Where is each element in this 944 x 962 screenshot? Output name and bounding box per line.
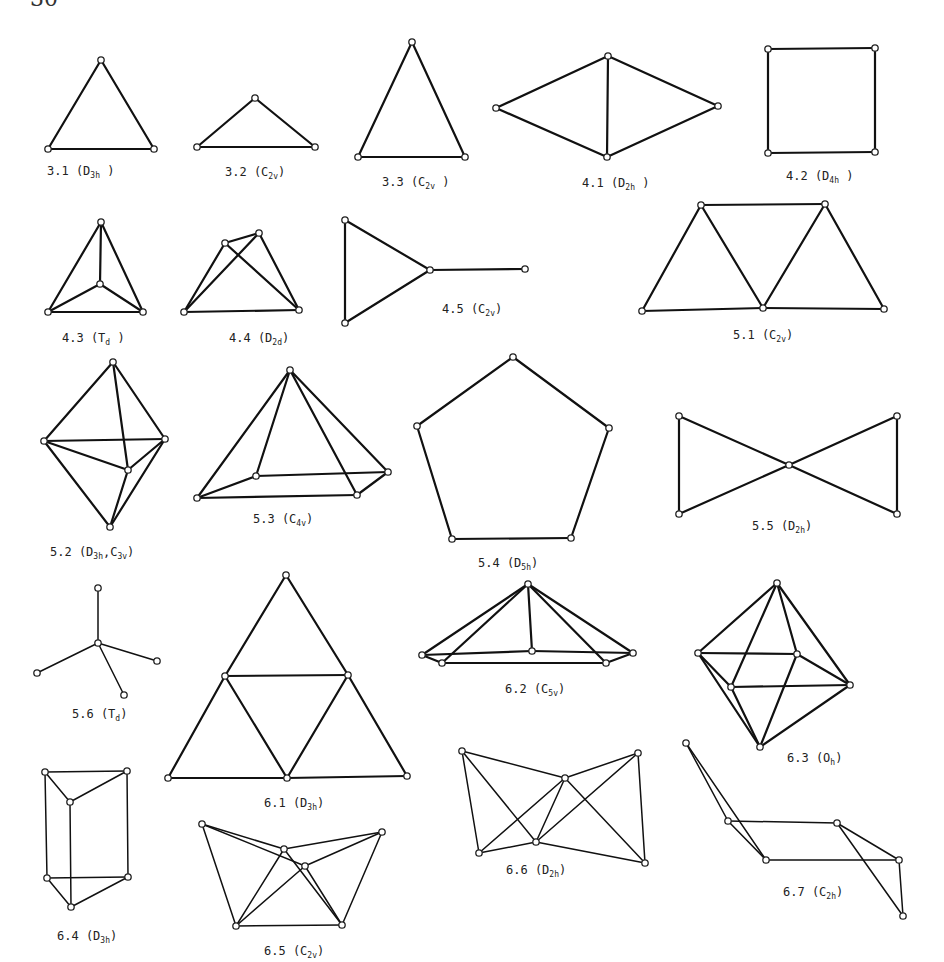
edge [608,56,718,106]
vertex-node [42,769,48,775]
edge [731,685,850,687]
vertex-node [757,744,763,750]
vertex-node [194,495,200,501]
edge [110,439,165,527]
edge [606,653,633,663]
edge [479,842,536,853]
edge [789,416,897,465]
edge [528,584,532,651]
vertex-node [287,367,293,373]
edge [236,866,305,926]
vertex-node [312,144,318,150]
edge [37,643,98,673]
edge [763,308,884,309]
edge [71,877,128,907]
edge [197,98,255,147]
figure-label: 3.3 (C2v ) [382,175,449,191]
vertex-node [427,267,433,273]
edge [731,687,760,747]
edge [113,362,128,470]
edge [496,56,608,108]
vertex-node [256,230,262,236]
edge [532,651,633,653]
figure-6-2: 6.2 (C5v) [419,581,636,698]
edge [462,751,565,778]
edge [345,270,430,323]
figure-6-1: 6.1 (D3h) [165,572,410,812]
edge [899,860,903,916]
vertex-node [125,467,131,473]
edge [513,357,609,428]
edge [287,675,348,778]
vertex-node [562,775,568,781]
edge [825,204,884,309]
vertex-node [283,572,289,578]
vertex-node [529,648,535,654]
edge [202,824,284,849]
vertex-node [296,307,302,313]
edge [184,243,225,312]
vertex-node [774,580,780,586]
edge [197,495,357,498]
edge [286,575,348,675]
vertex-node [162,436,168,442]
figure-5-6: 5.6 (Td) [34,585,160,723]
vertex-node [642,860,648,866]
vertex-node [95,640,101,646]
vertex-node [630,650,636,656]
vertex-node [639,308,645,314]
figure-label: 4.3 (Td ) [62,331,125,347]
edge [679,465,789,514]
figure-4-4: 4.4 (D2d) [181,230,302,347]
edge [701,205,763,308]
vertex-node [635,750,641,756]
vertex-node [45,309,51,315]
vertex-node [763,857,769,863]
figure-label: 5.3 (C4v) [253,512,313,528]
figure-label: 4.4 (D2d) [229,331,289,347]
figure-4-3: 4.3 (Td ) [45,219,146,347]
edge [48,60,101,149]
vertex-node [459,748,465,754]
vertex-node [222,673,228,679]
vertex-node [68,904,74,910]
edge [698,653,731,687]
figure-4-5: 4.5 (C2v) [342,217,528,326]
edge [225,575,286,676]
vertex-node [894,511,900,517]
edge [284,832,382,849]
vertex-node [345,672,351,678]
vertex-node [568,535,574,541]
edge [348,675,407,776]
edge [686,743,728,821]
edge [98,643,124,695]
vertex-node [222,240,228,246]
figure-5-4: 5.4 (D5h) [414,354,612,572]
vertex-node [834,820,840,826]
vertex-node [462,154,468,160]
figure-5-2: 5.2 (D3h,C3v) [41,359,168,561]
vertex-node [34,670,40,676]
edge [422,584,528,655]
vertex-node [493,105,499,111]
edge [686,743,766,860]
vertex-node [45,146,51,152]
figure-5-5: 5.5 (D2h) [676,413,900,535]
edge [225,676,287,778]
edge [287,776,407,778]
edge [763,204,825,308]
vertex-node [847,682,853,688]
vertex-node [284,775,290,781]
edge [462,751,479,853]
figure-label: 6.3 (Oh) [787,751,842,767]
edge [305,866,342,925]
edge [528,584,633,653]
vertex-node [603,660,609,666]
edge [305,832,382,866]
figure-label: 6.1 (D3h) [264,796,324,812]
edge [98,643,157,661]
figure-label: 5.4 (D5h) [478,556,538,572]
edge [430,269,525,270]
vertex-node [822,201,828,207]
figure-6-7: 6.7 (C2h) [683,740,906,919]
